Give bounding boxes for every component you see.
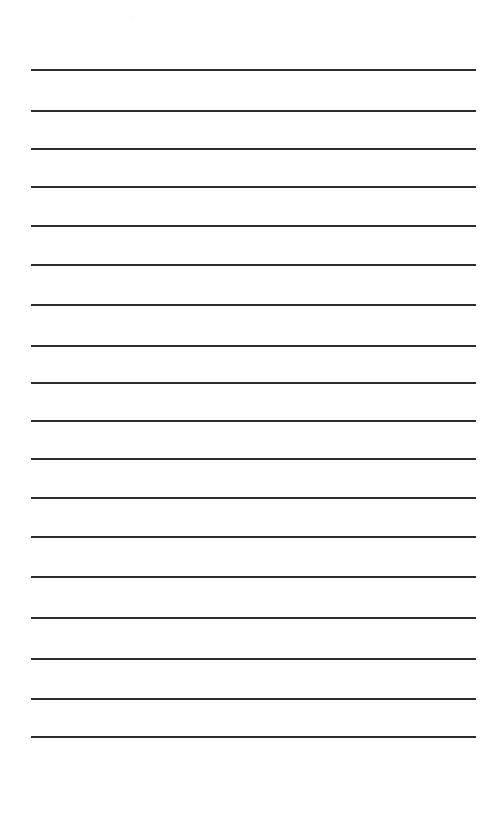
rule-line bbox=[31, 186, 476, 188]
rule-line bbox=[31, 497, 476, 499]
rule-line bbox=[31, 458, 476, 460]
rule-line bbox=[31, 69, 476, 71]
rule-line bbox=[31, 576, 476, 578]
rule-line bbox=[31, 345, 476, 347]
rule-line bbox=[31, 658, 476, 660]
rule-line bbox=[31, 736, 476, 738]
rule-line bbox=[31, 264, 476, 266]
rule-line bbox=[31, 536, 476, 538]
rule-line bbox=[31, 225, 476, 227]
rule-line bbox=[31, 382, 476, 384]
rule-line bbox=[31, 698, 476, 700]
rule-line bbox=[31, 617, 476, 619]
rule-line bbox=[31, 304, 476, 306]
writing-area[interactable] bbox=[0, 0, 488, 824]
lined-paper-page: Blank lined writing paper with horizonta… bbox=[0, 0, 488, 824]
rule-line bbox=[31, 110, 476, 112]
rule-line bbox=[31, 148, 476, 150]
rule-line bbox=[31, 420, 476, 422]
